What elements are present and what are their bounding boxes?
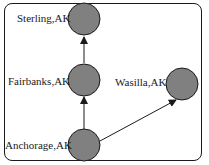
label-sterling: Sterling,AK xyxy=(17,12,70,24)
label-anchorage: Anchorage,AK xyxy=(5,139,72,151)
node-sterling[interactable] xyxy=(68,3,100,35)
node-fairbanks[interactable] xyxy=(68,64,100,96)
edge-anchorage-wasilla xyxy=(100,100,176,141)
label-wasilla: Wasilla,AK xyxy=(115,76,166,88)
node-anchorage[interactable] xyxy=(68,129,100,161)
node-wasilla[interactable] xyxy=(166,68,198,100)
label-fairbanks: Fairbanks,AK xyxy=(8,75,70,87)
